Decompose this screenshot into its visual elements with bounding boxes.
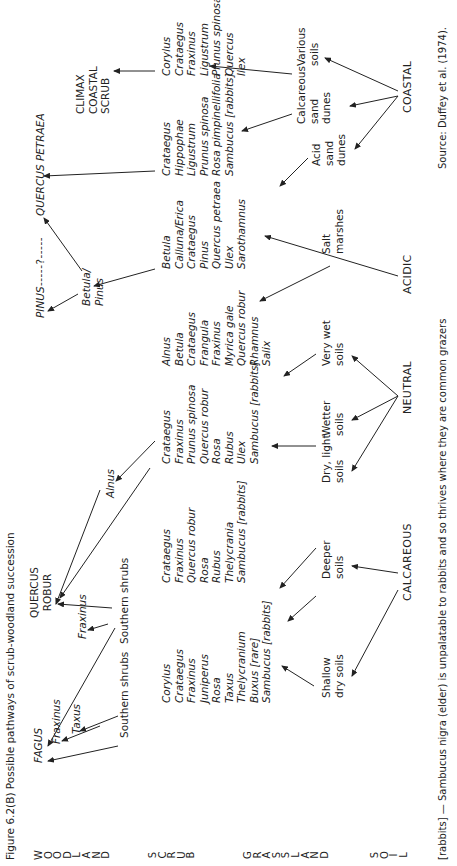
succession-diagram: Figure 6.2(B) Possible pathways of scrub… [0, 0, 457, 866]
pathway-arrows [0, 0, 457, 866]
